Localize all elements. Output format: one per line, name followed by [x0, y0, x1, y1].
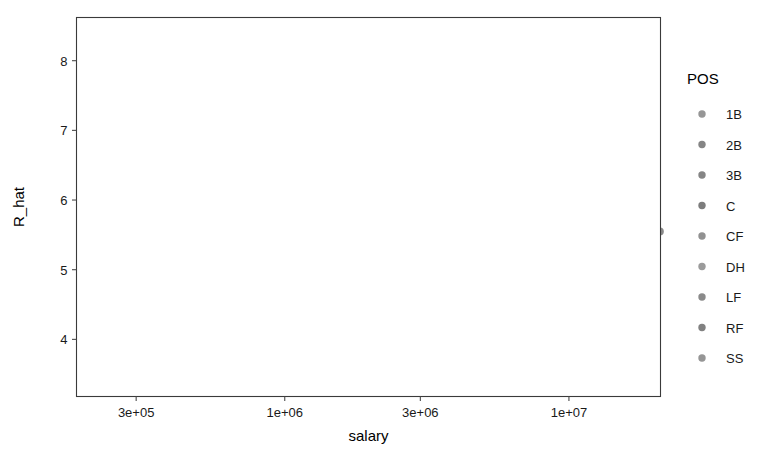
x-tick-label: 3e+06 [402, 405, 439, 420]
x-tick-label: 1e+06 [266, 405, 303, 420]
legend-item-label: C [726, 199, 735, 214]
legend-key-dot [698, 171, 705, 178]
legend-item-label: LF [726, 290, 741, 305]
legend-item-label: CF [726, 229, 743, 244]
legend-item-label: 1B [726, 107, 742, 122]
y-tick-label: 8 [60, 54, 67, 69]
plot-panel-border [77, 18, 661, 397]
y-tick-label: 5 [60, 263, 67, 278]
legend-title: POS [687, 70, 719, 87]
y-axis-title: R_hat [10, 186, 27, 227]
legend-key-dot [698, 263, 705, 270]
legend-item-label: 3B [726, 168, 742, 183]
legend-key-dot [698, 354, 705, 361]
legend-item-label: SS [726, 351, 744, 366]
chart-canvas: 3e+051e+063e+061e+07 45678 salary R_hat … [0, 0, 780, 463]
legend-key-dot [698, 293, 705, 300]
legend-item-label: 2B [726, 138, 742, 153]
y-tick-label: 4 [60, 332, 67, 347]
legend-key-dot [698, 324, 705, 331]
x-axis-title: salary [348, 427, 389, 444]
legend-key-dot [698, 232, 705, 239]
legend-key-dot [698, 141, 705, 148]
y-tick-label: 6 [60, 193, 67, 208]
legend-key-dot [698, 202, 705, 209]
legend-item-label: RF [726, 321, 743, 336]
x-tick-label: 3e+05 [118, 405, 155, 420]
y-tick-label: 7 [60, 123, 67, 138]
legend-key-dot [698, 110, 705, 117]
x-tick-label: 1e+07 [551, 405, 588, 420]
legend-item-label: DH [726, 260, 745, 275]
scatter-plot-figure: 3e+051e+063e+061e+07 45678 salary R_hat … [0, 0, 780, 463]
